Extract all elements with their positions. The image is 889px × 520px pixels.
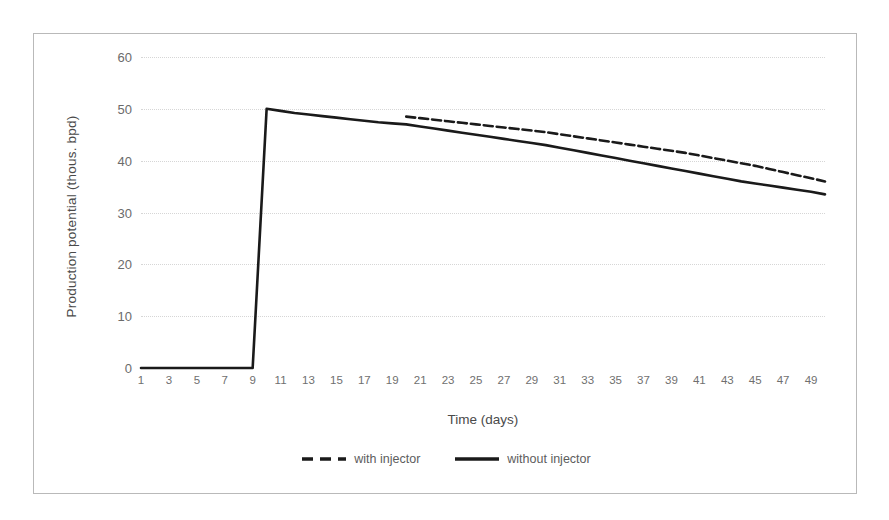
x-tick-label-45: 45: [749, 374, 762, 386]
x-axis-title: Time (days): [141, 412, 825, 427]
plot-area: 0102030405060: [141, 57, 825, 368]
y-tick-label-30: 30: [118, 205, 132, 220]
x-tick-label-5: 5: [194, 374, 200, 386]
y-tick-label-40: 40: [118, 153, 132, 168]
y-axis-title: Production potential (thous. bpd): [64, 57, 79, 377]
x-tick-label-25: 25: [470, 374, 483, 386]
x-tick-label-47: 47: [777, 374, 790, 386]
x-tick-label-41: 41: [693, 374, 706, 386]
x-tick-label-43: 43: [721, 374, 734, 386]
x-tick-label-21: 21: [414, 374, 427, 386]
x-tick-label-11: 11: [275, 374, 287, 386]
y-tick-label-60: 60: [118, 50, 132, 65]
x-tick-label-13: 13: [302, 374, 315, 386]
x-tick-label-33: 33: [581, 374, 594, 386]
legend-label-without-injector: without injector: [507, 452, 590, 466]
x-tick-label-35: 35: [609, 374, 622, 386]
x-tick-label-7: 7: [222, 374, 228, 386]
x-tick-label-27: 27: [498, 374, 511, 386]
series-line-without-injector: [141, 109, 825, 368]
y-tick-label-10: 10: [118, 309, 132, 324]
x-tick-label-39: 39: [665, 374, 678, 386]
y-tick-label-50: 50: [118, 101, 132, 116]
series-lines-svg: [141, 57, 825, 368]
x-tick-label-37: 37: [637, 374, 650, 386]
dashed-line-swatch: [301, 454, 347, 464]
x-tick-label-23: 23: [442, 374, 455, 386]
legend-entry-with-injector: with injector: [301, 452, 420, 466]
legend-label-with-injector: with injector: [354, 452, 420, 466]
chart-figure-frame: Production potential (thous. bpd) 010203…: [33, 33, 857, 494]
x-tick-label-17: 17: [358, 374, 371, 386]
legend-entry-without-injector: without injector: [454, 452, 590, 466]
y-tick-label-20: 20: [118, 257, 132, 272]
chart-legend: with injector without injector: [34, 452, 858, 466]
x-tick-label-31: 31: [553, 374, 566, 386]
x-axis-tick-labels: 1357911131517192123252729313335373941434…: [141, 374, 825, 394]
solid-line-swatch: [454, 454, 500, 464]
x-tick-label-29: 29: [525, 374, 538, 386]
x-tick-label-15: 15: [330, 374, 343, 386]
x-tick-label-3: 3: [166, 374, 172, 386]
x-tick-label-9: 9: [249, 374, 255, 386]
x-tick-label-1: 1: [138, 374, 144, 386]
y-tick-label-0: 0: [125, 361, 132, 376]
x-tick-label-49: 49: [805, 374, 818, 386]
series-line-with-injector: [406, 117, 825, 182]
x-tick-label-19: 19: [386, 374, 399, 386]
